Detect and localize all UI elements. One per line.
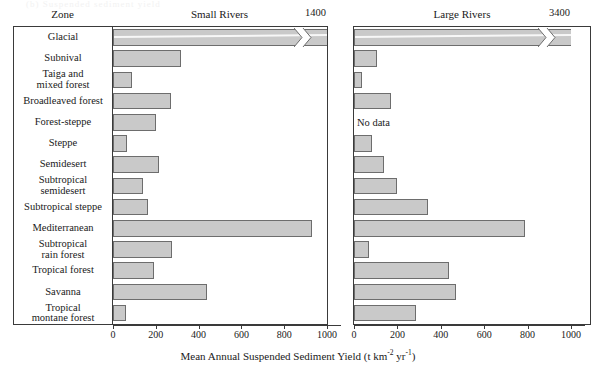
axis-tick-label: 800 — [264, 329, 304, 340]
bar — [113, 135, 127, 152]
bar-row — [113, 69, 327, 90]
axis-tick-label: 0 — [334, 329, 374, 340]
bar — [354, 178, 397, 195]
zone-label: Broadleaved forest — [14, 91, 112, 112]
bar-row — [113, 281, 327, 302]
axis-tick-label: 600 — [464, 329, 504, 340]
zone-label: Savanna — [14, 281, 112, 302]
axis-line — [354, 325, 585, 326]
axis-break-icon — [538, 28, 554, 47]
x-axis-label-mid: yr — [394, 350, 406, 362]
bar-row — [113, 154, 327, 175]
zone-label-column: GlacialSubnivalTaiga and mixed forestBro… — [14, 27, 112, 324]
overflow-value-large-rivers: 3400 — [549, 7, 570, 18]
axis-tick-label: 0 — [93, 329, 133, 340]
zone-label: Subtropical semidesert — [14, 175, 112, 196]
bar — [354, 72, 362, 89]
zone-label: Tropical montane forest — [14, 303, 112, 324]
bar — [354, 241, 369, 258]
bar — [113, 93, 171, 110]
bar — [354, 156, 384, 173]
zone-label: Subnival — [14, 48, 112, 69]
bar-row — [354, 27, 590, 48]
axis-tick-label: 1000 — [551, 329, 591, 340]
zone-column-header: Zone — [13, 8, 112, 20]
bar-row — [354, 154, 590, 175]
panel-header-large-rivers: Large Rivers — [353, 8, 571, 20]
bar — [354, 199, 428, 216]
axis-tick-label: 200 — [377, 329, 417, 340]
bar — [113, 220, 312, 237]
axis-tick-label: 600 — [221, 329, 261, 340]
zone-label: Semidesert — [14, 154, 112, 175]
zone-label: Subtropical steppe — [14, 197, 112, 218]
bar-row — [354, 303, 590, 324]
bar — [354, 93, 391, 110]
bar — [113, 262, 154, 279]
x-axis-label-main: Mean Annual Suspended Sediment Yield (t … — [181, 350, 388, 362]
bar — [113, 72, 132, 89]
bar-row — [113, 133, 327, 154]
bar — [113, 50, 181, 67]
axis-tick-label: 400 — [421, 329, 461, 340]
bar — [113, 156, 159, 173]
axis-tick-label: 800 — [508, 329, 548, 340]
axis-tick-label: 400 — [179, 329, 219, 340]
bars-small-rivers — [113, 27, 327, 324]
zone-label: Glacial — [14, 27, 112, 48]
bar — [354, 262, 449, 279]
bar-row — [113, 91, 327, 112]
bar-row: No data — [354, 112, 590, 133]
axis-line — [113, 325, 341, 326]
bar-row — [354, 69, 590, 90]
bar-row — [113, 260, 327, 281]
bar — [113, 114, 156, 131]
bar — [113, 241, 172, 258]
bar — [113, 305, 126, 322]
x-axis-label: Mean Annual Suspended Sediment Yield (t … — [0, 348, 596, 362]
bar-row — [354, 218, 590, 239]
bars-large-rivers: No data — [354, 27, 590, 324]
bar-row — [113, 197, 327, 218]
bar-row — [113, 112, 327, 133]
bar — [354, 135, 372, 152]
bar-row — [113, 48, 327, 69]
bar-row — [354, 260, 590, 281]
bar-row — [113, 239, 327, 260]
bar-row — [354, 281, 590, 302]
bar — [113, 178, 143, 195]
zone-label: Taiga and mixed forest — [14, 69, 112, 90]
bar-row — [354, 48, 590, 69]
bar-row — [354, 175, 590, 196]
x-axis-label-end: ) — [412, 350, 416, 362]
zone-label: Mediterranean — [14, 218, 112, 239]
bar-row — [354, 239, 590, 260]
panel-header-small-rivers: Small Rivers — [112, 8, 327, 20]
bar-row — [354, 197, 590, 218]
zone-label: Steppe — [14, 133, 112, 154]
bar-row — [113, 218, 327, 239]
zone-label: Forest-steppe — [14, 112, 112, 133]
bar — [354, 305, 416, 322]
bar-row — [354, 133, 590, 154]
zone-label: Subtropical rain forest — [14, 239, 112, 260]
bar — [113, 284, 207, 301]
figure-root: (b) Suspended sediment yield Zone Small … — [0, 0, 596, 371]
bar — [354, 50, 377, 67]
bar — [113, 199, 148, 216]
overflow-value-small-rivers: 1400 — [305, 7, 326, 18]
bar-row — [113, 303, 327, 324]
x-axis-small-rivers: 02004006008001000 — [113, 325, 327, 347]
x-axis-large-rivers: 02004006008001000 — [354, 325, 571, 347]
bar — [354, 220, 525, 237]
zone-label: Tropical forest — [14, 260, 112, 281]
bar-row — [113, 27, 327, 48]
bar-row — [354, 91, 590, 112]
bar-row — [113, 175, 327, 196]
bar — [354, 284, 456, 301]
axis-tick-label: 200 — [136, 329, 176, 340]
no-data-label: No data — [357, 117, 390, 128]
axis-break-icon — [294, 28, 310, 47]
